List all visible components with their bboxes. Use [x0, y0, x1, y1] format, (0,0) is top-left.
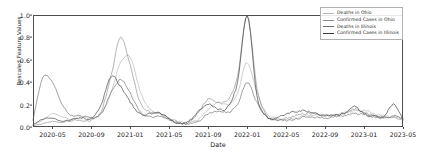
legend-item[interactable]: Confirmed Cases in Ohio	[323, 17, 399, 23]
x-tick-mark	[247, 127, 248, 129]
x-axis-tick-labels: 2020-052020-092021-012021-052021-092022-…	[33, 129, 403, 141]
y-tick-label: 0.8	[20, 34, 30, 41]
legend-label: Deaths in Illinois	[337, 24, 376, 30]
x-tick-label: 2022-05	[273, 131, 300, 138]
x-tick-label: 2022-09	[312, 131, 339, 138]
x-tick-label: 2023-01	[351, 131, 378, 138]
y-tick-label: 0.2	[20, 101, 30, 108]
y-tick-mark	[30, 104, 32, 105]
y-tick-mark	[30, 37, 32, 38]
x-tick-mark	[403, 127, 404, 129]
legend-label: Confirmed Cases in Ohio	[337, 17, 395, 23]
y-tick-label: 1.0	[20, 12, 30, 19]
x-tick-mark	[364, 127, 365, 129]
x-tick-label: 2022-01	[234, 131, 261, 138]
x-tick-mark	[169, 127, 170, 129]
y-tick-label: 0.4	[20, 79, 30, 86]
legend-color-swatch	[323, 13, 334, 14]
chart-legend: Deaths in OhioConfirmed Cases in OhioDea…	[320, 7, 403, 40]
legend-color-swatch	[323, 20, 334, 21]
y-tick-mark	[30, 127, 32, 128]
y-tick-label: 0.0	[20, 124, 30, 131]
x-tick-mark	[325, 127, 326, 129]
x-tick-label: 2021-05	[156, 131, 183, 138]
y-tick-mark	[30, 82, 32, 83]
x-tick-mark	[91, 127, 92, 129]
y-axis-tick-labels: 0.00.20.40.60.81.0	[0, 15, 30, 127]
x-tick-label: 2020-09	[78, 131, 105, 138]
legend-item[interactable]: Deaths in Ohio	[323, 10, 399, 16]
y-tick-mark	[30, 59, 32, 60]
x-tick-label: 2023-05	[390, 131, 417, 138]
legend-item[interactable]: Confirmed Cases in Illinois	[323, 30, 399, 36]
x-tick-mark	[286, 127, 287, 129]
legend-item[interactable]: Deaths in Illinois	[323, 24, 399, 30]
x-tick-label: 2021-01	[117, 131, 144, 138]
legend-label: Confirmed Cases in Illinois	[337, 30, 399, 36]
x-tick-mark	[130, 127, 131, 129]
legend-color-swatch	[323, 26, 334, 27]
legend-label: Deaths in Ohio	[337, 10, 372, 16]
x-tick-label: 2020-05	[39, 131, 66, 138]
x-tick-mark	[208, 127, 209, 129]
y-tick-label: 0.6	[20, 56, 30, 63]
y-tick-mark	[30, 15, 32, 16]
chart-figure: Rescaled Feature Values 0.00.20.40.60.81…	[0, 0, 426, 155]
x-axis-label: Date	[33, 141, 403, 149]
x-tick-mark	[52, 127, 53, 129]
x-tick-label: 2021-09	[195, 131, 222, 138]
legend-color-swatch	[323, 33, 334, 34]
